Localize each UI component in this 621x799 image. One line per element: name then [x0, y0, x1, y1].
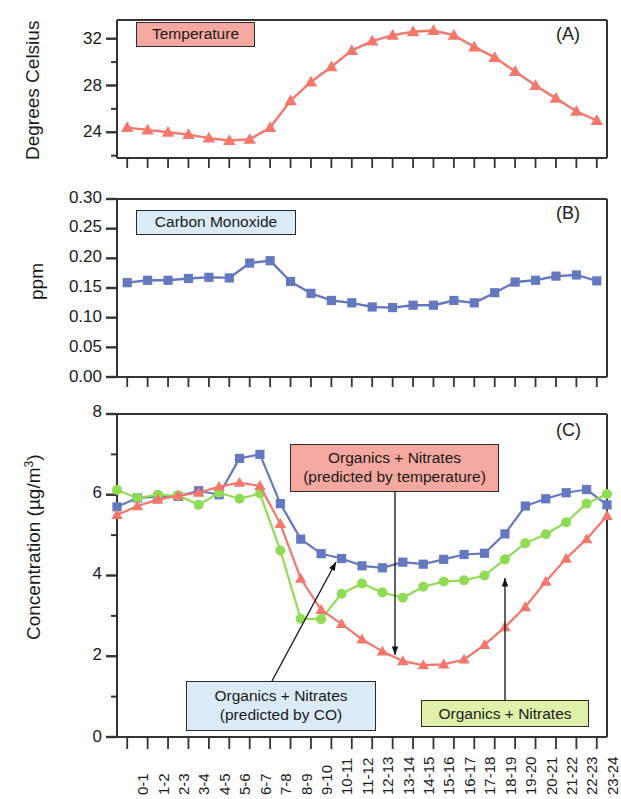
data-point-marker	[511, 277, 520, 286]
x-axis-tick-label: 21-22	[563, 757, 580, 795]
x-axis-tick-label: 1-2	[155, 773, 172, 795]
data-point-marker	[570, 105, 583, 116]
x-axis-tick-label: 15-16	[440, 757, 457, 795]
panel-b-ytick-025: 0.25	[46, 217, 102, 237]
data-point-marker	[398, 593, 408, 603]
panel-c-ytick-8: 8	[66, 402, 102, 422]
data-point-marker	[540, 576, 552, 586]
x-axis-tick-label: 19-20	[522, 757, 539, 795]
data-point-marker	[174, 492, 183, 501]
panel-c-y-axis-label-main: Concentration (µg/m	[23, 467, 44, 640]
panel-c-legend-predicted-co: Organics + Nitrates (predicted by CO)	[186, 681, 376, 731]
data-point-marker	[499, 621, 511, 631]
data-point-marker	[266, 256, 275, 265]
data-point-marker	[386, 29, 399, 40]
x-axis-tick-label: 17-18	[481, 757, 498, 795]
x-axis-tick-label: 6-7	[257, 773, 274, 795]
panel-b-tag: (B)	[556, 203, 580, 224]
panel-b-ytick-010: 0.10	[46, 307, 102, 327]
data-point-marker	[439, 555, 448, 564]
data-point-marker	[347, 298, 356, 307]
data-point-marker	[529, 79, 542, 90]
data-point-marker	[123, 278, 132, 287]
data-point-marker	[531, 276, 540, 285]
data-point-marker	[418, 659, 430, 669]
panel-c-legend-organics-nitrates: Organics + Nitrates	[421, 700, 589, 727]
data-point-marker	[254, 480, 265, 490]
legend-temp-line2: (predicted by temperature)	[297, 468, 492, 487]
data-point-marker	[356, 634, 368, 644]
data-point-marker	[357, 561, 366, 570]
panel-b-y-axis-label: ppm	[26, 263, 48, 300]
panel-a-ytick-24: 24	[58, 122, 102, 142]
data-point-marker	[153, 490, 163, 500]
data-point-marker	[582, 485, 591, 494]
data-point-marker	[305, 76, 318, 87]
data-point-marker	[203, 132, 216, 143]
panel-a-y-ticks	[106, 39, 117, 156]
data-point-marker	[133, 493, 142, 502]
panel-c-legend-predicted-temperature: Organics + Nitrates (predicted by temper…	[290, 444, 499, 492]
data-point-marker	[602, 489, 612, 499]
data-point-marker	[264, 121, 277, 132]
data-point-marker	[592, 276, 601, 285]
data-point-marker	[581, 533, 593, 543]
data-point-marker	[194, 500, 204, 510]
data-point-marker	[560, 553, 572, 563]
data-point-marker	[184, 274, 193, 283]
panel-c-series-predicted-by-temperature	[111, 477, 613, 669]
data-point-marker	[366, 35, 379, 46]
panel-c-series-organics-nitrates	[112, 485, 612, 624]
data-point-marker	[235, 454, 244, 463]
panel-c-y-axis-label-exponent: 3	[22, 461, 36, 468]
x-axis-tick-label: 11-12	[359, 758, 376, 795]
x-axis-tick-label: 12-13	[379, 757, 396, 795]
data-point-marker	[132, 493, 142, 503]
data-point-marker	[245, 258, 254, 267]
panel-b-y-ticks	[106, 199, 117, 377]
panel-c-ytick-6: 6	[66, 483, 102, 503]
data-point-marker	[296, 614, 306, 624]
data-point-marker	[429, 301, 438, 310]
data-point-marker	[286, 277, 295, 286]
data-point-marker	[357, 579, 367, 589]
data-point-marker	[591, 114, 604, 125]
panel-c-x-ticks	[127, 737, 597, 749]
x-axis-tick-label: 23-24	[604, 757, 621, 795]
data-point-marker	[368, 302, 377, 311]
panel-a-ytick-28: 28	[58, 76, 102, 96]
data-point-marker	[337, 554, 346, 563]
data-point-marker	[468, 41, 481, 52]
data-point-marker	[132, 500, 144, 510]
panel-b-legend-carbon-monoxide: Carbon Monoxide	[136, 210, 296, 235]
legend-co-line1: Organics + Nitrates	[193, 687, 369, 706]
x-axis-tick-label: 4-5	[216, 773, 233, 795]
data-point-marker	[255, 450, 264, 459]
x-axis-tick-label: 20-21	[543, 757, 560, 795]
data-point-marker	[243, 133, 256, 144]
leader-predicted-co	[272, 562, 336, 681]
data-point-marker	[550, 92, 563, 103]
data-point-marker	[306, 289, 315, 298]
x-axis-tick-label: 2-3	[175, 773, 192, 795]
data-point-marker	[214, 488, 224, 498]
data-point-marker	[427, 24, 440, 35]
data-point-marker	[295, 573, 307, 583]
panel-c-ytick-2: 2	[66, 645, 102, 665]
data-point-marker	[225, 273, 234, 282]
data-point-marker	[521, 501, 530, 510]
leader-organics-nitrates	[502, 578, 508, 700]
panel-b-ytick-015: 0.15	[46, 277, 102, 297]
x-axis-tick-label: 22-23	[583, 757, 600, 795]
data-point-marker	[275, 545, 285, 555]
panel-b-ytick-000: 0.00	[46, 367, 102, 387]
panel-a-y-axis-label: Degrees Celsius	[22, 21, 44, 160]
data-point-marker	[541, 529, 551, 539]
data-point-marker	[572, 270, 581, 279]
data-point-marker	[296, 535, 305, 544]
data-point-marker	[275, 518, 287, 528]
data-point-marker	[520, 538, 530, 548]
data-point-marker	[141, 124, 154, 135]
